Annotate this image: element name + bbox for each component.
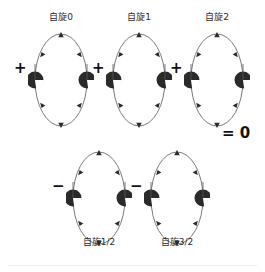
orbit-arrow-lower-left [118, 103, 123, 108]
orbit-arrow-top [174, 150, 180, 155]
orbit-arrow-upper-right [155, 52, 160, 57]
orbit-arrow-upper-right [77, 52, 82, 57]
orbit-arrow-lower-right [115, 221, 120, 226]
spin-label-1: 自旋1 [106, 10, 172, 23]
orbit-arrow-bottom [58, 123, 64, 128]
operator-sign-minus-0: − [52, 179, 65, 194]
orbit-arrow-bottom [214, 123, 220, 128]
operator-sign-minus-1: − [130, 179, 143, 194]
spin-diagram-figure: 自旋0 + 自旋1 + [0, 0, 265, 272]
orbit-arrow-upper-left [118, 52, 123, 57]
spin-diagram-1 [106, 30, 172, 134]
orbit-arrow-top [136, 32, 142, 37]
orbit-arrow-bottom [136, 123, 142, 128]
spin-label-4: 自旋3/2 [144, 235, 210, 248]
spin-label-0: 自旋0 [28, 10, 94, 23]
orbit-arrow-upper-left [40, 52, 45, 57]
operator-sign-plus-0: + [14, 61, 27, 76]
operator-sign-plus-2: + [170, 61, 183, 76]
spin-svg-1 [106, 30, 172, 130]
spin-label-3: 自旋1/2 [66, 235, 132, 248]
orbit-arrow-lower-left [196, 103, 201, 108]
spin-diagram-2 [184, 30, 250, 134]
orbit-arrow-upper-left [78, 170, 83, 175]
spin-svg-2 [184, 30, 250, 130]
orbit-arrow-upper-left [156, 170, 161, 175]
spin-svg-3 [66, 148, 132, 248]
operator-sign-plus-1: + [92, 61, 105, 76]
orbit-arrow-top [58, 32, 64, 37]
orbit-arrow-top [214, 32, 220, 37]
orbit-arrow-upper-left [196, 52, 201, 57]
orbit-arrow-upper-right [233, 52, 238, 57]
orbit-arrow-lower-right [77, 103, 82, 108]
spin-label-2: 自旋2 [184, 10, 250, 23]
bottom-divider [8, 265, 257, 266]
orbit-arrow-upper-right [193, 170, 198, 175]
orbit-arrow-top [96, 150, 102, 155]
spin-svg-4 [144, 148, 210, 248]
orbit-arrow-lower-right [233, 103, 238, 108]
spin-svg-0 [28, 30, 94, 130]
orbit-arrow-lower-right [155, 103, 160, 108]
orbit-arrow-lower-right [193, 221, 198, 226]
orbit-arrow-lower-left [40, 103, 45, 108]
orbit-arrow-lower-left [156, 221, 161, 226]
orbit-arrow-upper-right [115, 170, 120, 175]
orbit-arrow-lower-left [78, 221, 83, 226]
result-equals-zero: = 0 [222, 126, 250, 141]
spin-diagram-0 [28, 30, 94, 134]
